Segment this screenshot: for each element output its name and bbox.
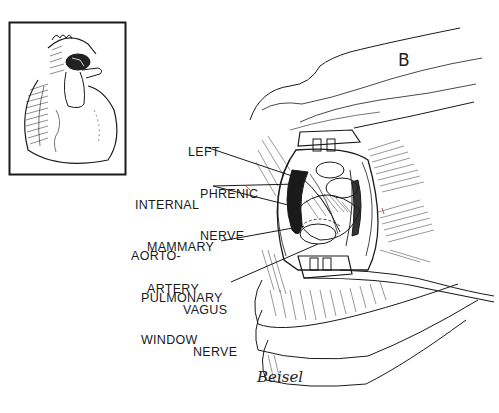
label-vagus-nerve: VAGUS NERVE — [183, 275, 237, 373]
label-line: VAGUS — [183, 303, 237, 317]
artist-signature: Beisel — [257, 368, 303, 386]
label-line: AORTO- — [131, 249, 223, 263]
label-line: NERVE — [193, 345, 237, 359]
panel-letter: B — [398, 50, 410, 70]
label-line: LEFT — [188, 145, 258, 159]
inset-heart-diagram — [10, 23, 126, 175]
label-line: INTERNAL — [135, 198, 214, 212]
